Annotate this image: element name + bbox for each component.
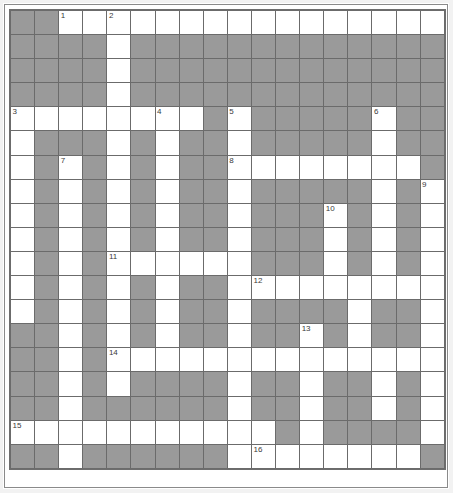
crossword-cell-open[interactable] [203, 420, 227, 444]
crossword-cell-open[interactable] [155, 420, 179, 444]
crossword-cell-open[interactable] [59, 396, 83, 420]
crossword-cell-open[interactable] [107, 420, 131, 444]
crossword-cell-open[interactable] [155, 11, 179, 35]
crossword-cell-open[interactable] [59, 372, 83, 396]
crossword-cell-open[interactable] [35, 107, 59, 131]
crossword-cell-open[interactable] [276, 444, 300, 468]
crossword-cell-open[interactable] [83, 420, 107, 444]
crossword-cell-open[interactable] [59, 203, 83, 227]
crossword-cell-open[interactable] [372, 276, 396, 300]
crossword-cell-open[interactable] [11, 227, 35, 251]
crossword-cell-open[interactable] [179, 11, 203, 35]
crossword-cell-open[interactable] [107, 300, 131, 324]
crossword-cell-open[interactable] [107, 107, 131, 131]
crossword-cell-open[interactable] [155, 155, 179, 179]
crossword-cell-open[interactable] [396, 444, 420, 468]
crossword-cell-open[interactable] [324, 444, 348, 468]
crossword-cell-open[interactable] [227, 324, 251, 348]
crossword-cell-open[interactable] [420, 11, 444, 35]
crossword-cell-open[interactable] [155, 179, 179, 203]
crossword-cell-open[interactable] [227, 396, 251, 420]
crossword-cell-open[interactable] [348, 324, 372, 348]
crossword-cell-open[interactable] [107, 83, 131, 107]
crossword-cell-open[interactable]: 10 [324, 203, 348, 227]
crossword-cell-open[interactable] [11, 203, 35, 227]
crossword-cell-open[interactable] [372, 372, 396, 396]
crossword-cell-open[interactable] [420, 324, 444, 348]
crossword-cell-open[interactable]: 4 [155, 107, 179, 131]
crossword-cell-open[interactable]: 12 [251, 276, 275, 300]
crossword-cell-open[interactable] [155, 227, 179, 251]
crossword-cell-open[interactable] [155, 300, 179, 324]
crossword-cell-open[interactable] [59, 179, 83, 203]
crossword-cell-open[interactable] [59, 348, 83, 372]
crossword-cell-open[interactable] [131, 251, 155, 275]
crossword-cell-open[interactable] [131, 348, 155, 372]
crossword-cell-open[interactable] [179, 420, 203, 444]
crossword-cell-open[interactable] [251, 420, 275, 444]
crossword-cell-open[interactable] [348, 11, 372, 35]
crossword-cell-open[interactable] [155, 251, 179, 275]
crossword-cell-open[interactable] [300, 11, 324, 35]
crossword-cell-open[interactable] [59, 251, 83, 275]
crossword-cell-open[interactable] [396, 276, 420, 300]
crossword-cell-open[interactable] [107, 227, 131, 251]
crossword-cell-open[interactable] [179, 348, 203, 372]
crossword-cell-open[interactable] [348, 444, 372, 468]
crossword-cell-open[interactable] [155, 348, 179, 372]
crossword-cell-open[interactable] [179, 107, 203, 131]
crossword-cell-open[interactable]: 2 [107, 11, 131, 35]
crossword-cell-open[interactable]: 6 [372, 107, 396, 131]
crossword-cell-open[interactable] [324, 155, 348, 179]
crossword-cell-open[interactable]: 8 [227, 155, 251, 179]
crossword-cell-open[interactable] [11, 179, 35, 203]
crossword-cell-open[interactable] [300, 155, 324, 179]
crossword-cell-open[interactable] [59, 300, 83, 324]
crossword-cell-open[interactable] [251, 11, 275, 35]
crossword-cell-open[interactable] [107, 59, 131, 83]
crossword-cell-open[interactable] [59, 444, 83, 468]
crossword-cell-open[interactable] [372, 179, 396, 203]
crossword-cell-open[interactable]: 14 [107, 348, 131, 372]
crossword-cell-open[interactable] [11, 131, 35, 155]
crossword-cell-open[interactable] [372, 131, 396, 155]
crossword-cell-open[interactable] [227, 227, 251, 251]
crossword-cell-open[interactable] [155, 324, 179, 348]
crossword-cell-open[interactable] [203, 11, 227, 35]
crossword-cell-open[interactable] [155, 131, 179, 155]
crossword-cell-open[interactable] [324, 227, 348, 251]
crossword-cell-open[interactable] [227, 251, 251, 275]
crossword-cell-open[interactable] [131, 11, 155, 35]
crossword-grid[interactable]: 12345678910111213141516 [10, 10, 445, 469]
crossword-cell-open[interactable] [300, 444, 324, 468]
crossword-cell-open[interactable] [420, 203, 444, 227]
crossword-cell-open[interactable] [372, 251, 396, 275]
crossword-cell-open[interactable] [59, 276, 83, 300]
crossword-cell-open[interactable] [324, 251, 348, 275]
crossword-cell-open[interactable] [372, 155, 396, 179]
crossword-cell-open[interactable]: 1 [59, 11, 83, 35]
crossword-cell-open[interactable] [131, 420, 155, 444]
crossword-cell-open[interactable] [59, 324, 83, 348]
crossword-cell-open[interactable] [59, 420, 83, 444]
crossword-cell-open[interactable] [324, 348, 348, 372]
crossword-cell-open[interactable] [227, 348, 251, 372]
crossword-cell-open[interactable] [372, 227, 396, 251]
crossword-cell-open[interactable] [420, 251, 444, 275]
crossword-cell-open[interactable] [372, 444, 396, 468]
crossword-cell-open[interactable] [107, 276, 131, 300]
crossword-cell-open[interactable] [396, 155, 420, 179]
crossword-cell-open[interactable] [227, 444, 251, 468]
crossword-cell-open[interactable] [107, 179, 131, 203]
crossword-cell-open[interactable] [227, 203, 251, 227]
crossword-cell-open[interactable] [107, 372, 131, 396]
crossword-cell-open[interactable] [107, 131, 131, 155]
crossword-cell-open[interactable] [300, 276, 324, 300]
crossword-cell-open[interactable] [203, 348, 227, 372]
crossword-cell-open[interactable] [83, 11, 107, 35]
crossword-cell-open[interactable] [59, 227, 83, 251]
crossword-cell-open[interactable] [155, 203, 179, 227]
crossword-cell-open[interactable] [348, 300, 372, 324]
crossword-cell-open[interactable] [420, 348, 444, 372]
crossword-cell-open[interactable] [276, 155, 300, 179]
